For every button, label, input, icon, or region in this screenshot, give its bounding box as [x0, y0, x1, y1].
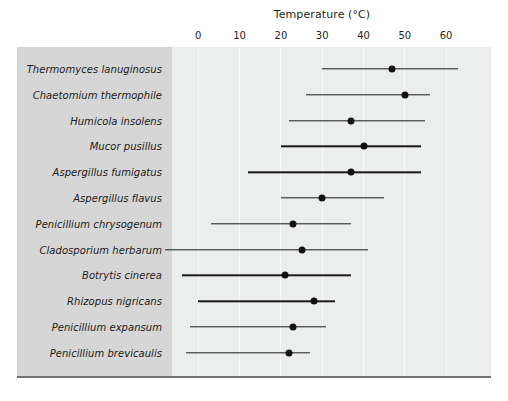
range-line — [281, 197, 384, 198]
chart-title: Temperature (°C) — [198, 8, 446, 21]
data-row: Botrytis cinerea — [17, 263, 491, 287]
optimum-marker — [319, 195, 326, 202]
x-tick-label-0: 0 — [195, 30, 201, 41]
species-label: Botrytis cinerea — [82, 270, 162, 281]
x-tick-label-10: 10 — [233, 30, 246, 41]
optimum-marker — [348, 117, 355, 124]
temperature-range-chart: Temperature (°C) 0102030405060 Thermomyc… — [0, 0, 508, 401]
optimum-marker — [282, 272, 289, 279]
range-line — [306, 94, 430, 95]
data-row: Chaetomium thermophile — [17, 83, 491, 107]
data-row: Rhizopus nigricans — [17, 289, 491, 313]
species-label: Penicillium expansum — [52, 322, 162, 333]
optimum-marker — [389, 66, 396, 73]
x-tick-label-40: 40 — [357, 30, 370, 41]
species-label: Cladosporium herbarum — [40, 244, 163, 255]
range-line — [190, 326, 326, 327]
species-label: Aspergillus fumigatus — [53, 167, 162, 178]
optimum-marker — [360, 143, 367, 150]
optimum-marker — [290, 324, 297, 331]
data-row: Cladosporium herbarum — [17, 238, 491, 262]
data-row: Penicillium expansum — [17, 315, 491, 339]
data-row: Aspergillus flavus — [17, 186, 491, 210]
range-line — [182, 275, 351, 276]
species-label: Chaetomium thermophile — [33, 89, 162, 100]
species-label: Penicillium brevicaulis — [50, 347, 162, 358]
data-row: Penicillium chrysogenum — [17, 212, 491, 236]
x-tick-label-50: 50 — [398, 30, 411, 41]
x-tick-label-60: 60 — [440, 30, 453, 41]
optimum-marker — [286, 349, 293, 356]
optimum-marker — [401, 91, 408, 98]
optimum-marker — [310, 298, 317, 305]
range-line — [281, 146, 421, 147]
data-row: Thermomyces lanuginosus — [17, 57, 491, 81]
axis-baseline — [17, 376, 491, 378]
plot-panel: Thermomyces lanuginosusChaetomium thermo… — [17, 47, 491, 376]
data-row: Humicola insolens — [17, 109, 491, 133]
species-label: Mucor pusillus — [90, 141, 162, 152]
data-row: Mucor pusillus — [17, 134, 491, 158]
species-label: Aspergillus flavus — [73, 193, 162, 204]
range-line — [289, 120, 425, 121]
x-tick-label-30: 30 — [316, 30, 329, 41]
species-label: Thermomyces lanuginosus — [27, 64, 162, 75]
optimum-marker — [298, 246, 305, 253]
range-line — [165, 249, 367, 250]
data-row: Penicillium brevicaulis — [17, 341, 491, 365]
optimum-marker — [290, 220, 297, 227]
range-line — [248, 171, 421, 172]
optimum-marker — [348, 169, 355, 176]
species-label: Rhizopus nigricans — [67, 296, 162, 307]
species-label: Humicola insolens — [70, 115, 162, 126]
x-tick-label-20: 20 — [275, 30, 288, 41]
data-row: Aspergillus fumigatus — [17, 160, 491, 184]
range-line — [211, 223, 351, 224]
species-label: Penicillium chrysogenum — [36, 218, 162, 229]
